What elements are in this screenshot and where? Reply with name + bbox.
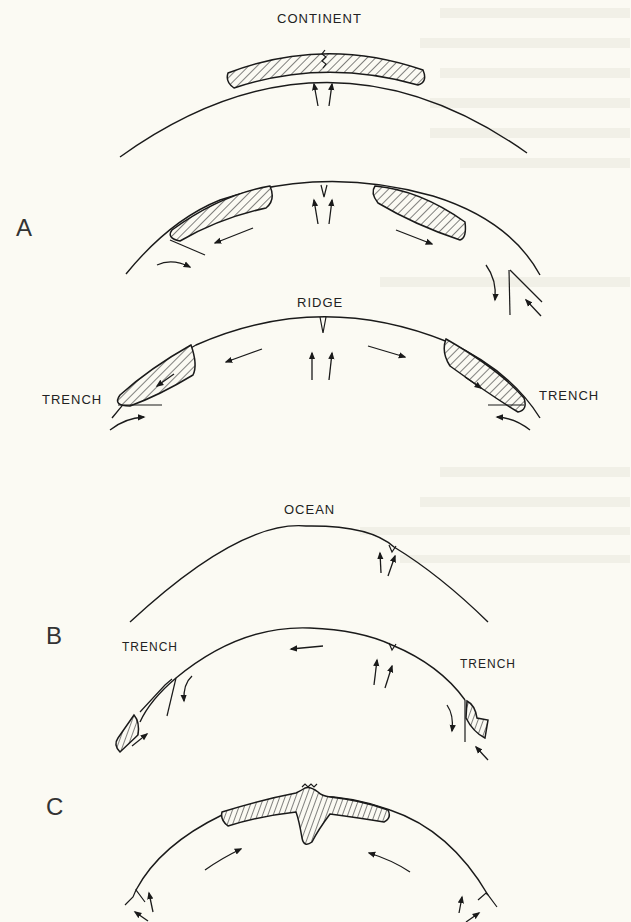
plate-tectonics-figure: CONTINENT A RIDGE TRENCH TRENCH OCEAN B … (0, 0, 631, 922)
stage-b1-ocean (130, 526, 488, 622)
label-trench-right-b: TRENCH (460, 657, 516, 671)
label-trench-left-b: TRENCH (122, 640, 178, 654)
label-ridge: RIDGE (297, 295, 343, 310)
panel-label-b: B (46, 622, 62, 650)
stage-a3-ridge (110, 317, 540, 430)
label-trench-left-a: TRENCH (42, 392, 102, 407)
label-ocean: OCEAN (284, 502, 335, 517)
label-continent: CONTINENT (277, 11, 362, 26)
diagram-canvas (0, 0, 631, 922)
label-trench-right-a: TRENCH (539, 388, 599, 403)
panel-label-a: A (16, 214, 32, 242)
panel-label-c: C (46, 793, 63, 821)
stage-c-collision (125, 784, 497, 922)
